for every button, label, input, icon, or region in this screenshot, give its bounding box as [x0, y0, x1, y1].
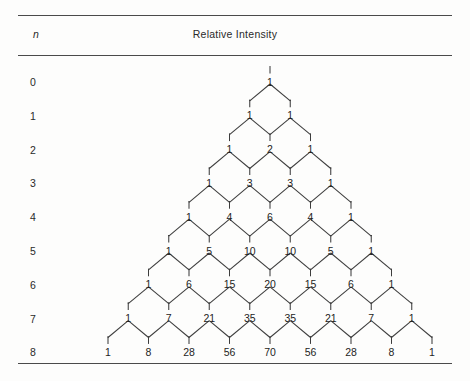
coefficient-n4-k0: 1 [186, 211, 192, 223]
hex-leg-right [392, 287, 412, 304]
hex-leg-right [169, 321, 189, 338]
coefficient-n2-k1: 2 [267, 143, 273, 155]
coefficient-n7-k3: 35 [244, 312, 256, 324]
coefficient-n5-k2: 10 [244, 245, 256, 257]
coefficient-n6-k3: 20 [264, 278, 276, 290]
hex-leg-right [149, 287, 169, 304]
coefficient-n4-k2: 6 [267, 211, 273, 223]
coefficient-n7-k0: 1 [125, 312, 131, 324]
hex-leg-right [250, 185, 270, 202]
coefficient-n5-k0: 1 [166, 245, 172, 257]
coefficient-n6-k1: 6 [186, 278, 192, 290]
hex-leg-right [331, 253, 351, 270]
hex-leg-right [371, 321, 391, 338]
hex-leg-right [270, 219, 290, 236]
hex-leg-right [351, 287, 371, 304]
coefficient-n7-k6: 7 [368, 312, 374, 324]
hex-leg-right [311, 219, 331, 236]
hex-leg-right [290, 185, 310, 202]
hex-leg-right [250, 118, 270, 135]
hex-leg-right [331, 185, 351, 202]
hex-leg-right [189, 219, 209, 236]
figure-panel: n Relative Intensity 012345678 111121133… [0, 0, 470, 381]
coefficient-n8-k3: 56 [224, 346, 236, 358]
coefficient-n0-k0: 1 [267, 76, 273, 88]
coefficient-n4-k1: 4 [227, 211, 233, 223]
coefficient-n8-k5: 56 [305, 346, 317, 358]
coefficient-n7-k1: 7 [166, 312, 172, 324]
coefficient-n2-k2: 1 [308, 143, 314, 155]
coefficient-n4-k4: 1 [348, 211, 354, 223]
coefficient-n8-k4: 70 [264, 346, 276, 358]
coefficient-n4-k3: 4 [308, 211, 314, 223]
coefficient-n6-k6: 1 [389, 278, 395, 290]
coefficient-n1-k1: 1 [287, 109, 293, 121]
coefficient-labels: 1111211331146411510105116152015611721353… [105, 76, 435, 358]
coefficient-n3-k1: 3 [247, 177, 253, 189]
coefficient-n7-k2: 21 [203, 312, 215, 324]
pascals-triangle-diagram: 1111211331146411510105116152015611721353… [0, 0, 470, 381]
coefficient-n8-k8: 1 [429, 346, 435, 358]
coefficient-n5-k4: 5 [328, 245, 334, 257]
coefficient-n3-k3: 1 [328, 177, 334, 189]
coefficient-n7-k4: 35 [284, 312, 296, 324]
hex-leg-right [412, 321, 432, 338]
hexagon-lattice-lines [108, 66, 432, 344]
coefficient-n3-k0: 1 [206, 177, 212, 189]
hex-leg-right [209, 253, 229, 270]
hex-leg-right [351, 219, 371, 236]
coefficient-n7-k7: 1 [409, 312, 415, 324]
hex-leg-right [230, 219, 250, 236]
hex-leg-right [270, 84, 290, 101]
coefficient-n8-k0: 1 [105, 346, 111, 358]
coefficient-n7-k5: 21 [325, 312, 337, 324]
coefficient-n8-k7: 8 [389, 346, 395, 358]
coefficient-n8-k6: 28 [345, 346, 357, 358]
hex-leg-right [371, 253, 391, 270]
coefficient-n5-k3: 10 [284, 245, 296, 257]
hex-leg-right [169, 253, 189, 270]
hex-leg-right [189, 287, 209, 304]
coefficient-n8-k2: 28 [183, 346, 195, 358]
coefficient-n5-k1: 5 [206, 245, 212, 257]
coefficient-n6-k0: 1 [146, 278, 152, 290]
coefficient-n6-k2: 15 [224, 278, 236, 290]
hex-leg-right [290, 118, 310, 135]
hex-leg-right [270, 152, 290, 169]
coefficient-n3-k2: 3 [287, 177, 293, 189]
coefficient-n1-k0: 1 [247, 109, 253, 121]
hex-leg-right [230, 152, 250, 169]
coefficient-n6-k5: 6 [348, 278, 354, 290]
coefficient-n6-k4: 15 [305, 278, 317, 290]
coefficient-n5-k5: 1 [368, 245, 374, 257]
coefficient-n8-k1: 8 [146, 346, 152, 358]
coefficient-n2-k0: 1 [227, 143, 233, 155]
hex-leg-right [128, 321, 148, 338]
hex-leg-right [209, 185, 229, 202]
hex-leg-right [311, 152, 331, 169]
